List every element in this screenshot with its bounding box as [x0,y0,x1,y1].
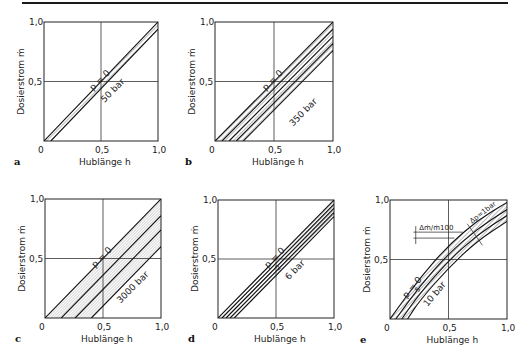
y-axis-label: Dosierstrom ṁ [187,48,197,115]
y-tick-10: 1,0 [200,17,215,27]
panel-letter: c [15,333,21,344]
panel-b: 00,51,00,51,0Hublänge hDosierstrom ṁbp =… [185,17,342,167]
x-axis-label: Hublänge h [254,334,306,344]
y-tick-05: 0,5 [28,77,42,87]
panel-letter: b [185,156,192,167]
x-tick-10: 1,0 [152,145,167,155]
x-tick-10: 1,0 [327,145,342,155]
panel-letter: e [360,334,366,345]
x-tick-10: 1,0 [155,322,170,332]
panel-a: 00,51,00,51,0Hublänge hDosierstrom ṁap =… [14,17,167,167]
x-tick-10: 1,0 [501,323,516,333]
panel-e: 00,51,00,51,0Hublänge hDosierstrom ṁep =… [360,195,516,345]
series-line [222,29,333,141]
x-tick-0: 0 [38,145,44,155]
x-tick-05: 0,5 [97,322,111,332]
series-line [229,36,333,141]
y-axis-label: Dosierstrom ṁ [17,225,27,292]
y-tick-05: 0,5 [199,77,213,87]
x-tick-05: 0,5 [443,323,457,333]
series-line [408,221,507,319]
x-tick-0: 0 [212,322,218,332]
series-line [51,29,158,141]
x-tick-05: 0,5 [95,145,109,155]
y-axis-label: Dosierstrom ṁ [16,48,26,115]
label-max-pressure: 350 bar [287,96,319,128]
y-tick-05: 0,5 [29,254,43,264]
x-tick-10: 1,0 [328,322,343,332]
panel-d: 00,51,00,51,0Hublänge hDosierstrom ṁdp =… [188,195,343,344]
x-axis-label: Hublänge h [252,157,304,167]
series-line [61,216,161,318]
annotation-delta-m: Δṁ/ṁ100 [419,224,453,232]
series-line [243,51,333,141]
x-axis-label: Hublänge h [79,157,131,167]
panel-letter: d [188,333,195,344]
series-line [226,208,334,318]
x-axis-label: Hublänge h [427,335,479,345]
x-tick-05: 0,5 [268,145,282,155]
x-tick-0: 0 [39,322,45,332]
y-axis-label: Dosierstrom ṁ [362,226,372,293]
y-tick-10: 1,0 [29,17,44,27]
x-axis-label: Hublänge h [81,334,133,344]
figure-canvas: 00,51,00,51,0Hublänge hDosierstrom ṁap =… [0,0,524,358]
x-tick-05: 0,5 [270,322,284,332]
panel-letter: a [14,156,21,167]
x-tick-0: 0 [384,323,390,333]
panel-c: 00,51,00,51,0Hublänge hDosierstrom ṁcp =… [15,194,170,344]
y-axis-label: Dosierstrom ṁ [190,226,200,293]
y-tick-10: 1,0 [30,194,45,204]
y-tick-10: 1,0 [203,195,218,205]
y-tick-05: 0,5 [374,255,388,265]
series-line [236,43,333,141]
x-tick-0: 0 [209,145,215,155]
y-tick-05: 0,5 [202,254,216,264]
series-line [234,217,334,318]
y-tick-10: 1,0 [375,195,390,205]
series-line [230,212,334,318]
